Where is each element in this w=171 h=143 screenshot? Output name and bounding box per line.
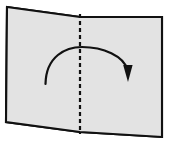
paper-right-panel — [80, 17, 162, 137]
origami-illustration — [0, 0, 171, 143]
paper-left-panel — [6, 7, 80, 132]
origami-diagram — [0, 0, 171, 143]
